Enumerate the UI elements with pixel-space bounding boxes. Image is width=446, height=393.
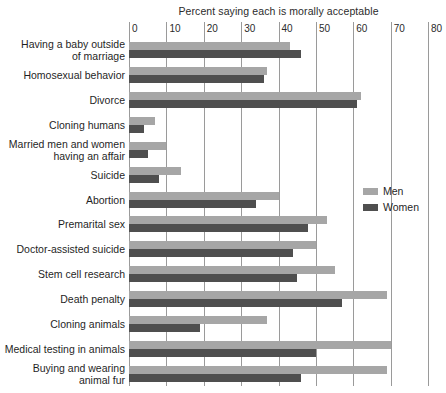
bar-group [129, 316, 429, 332]
x-axis-tick-label: 40 [279, 23, 293, 34]
gridline [241, 38, 242, 386]
x-axis-tick-label: 60 [353, 23, 367, 34]
category-label: Cloning animals [0, 318, 125, 330]
bar-women [129, 324, 200, 332]
bar-men [129, 366, 387, 374]
bar-men [129, 67, 267, 75]
bar-women [129, 125, 144, 133]
category-label: Abortion [0, 194, 125, 206]
bar-group [129, 142, 429, 158]
x-axis-tick-label: 20 [204, 23, 218, 34]
category-label: Married men and women having an affair [0, 138, 125, 162]
chart-title: Percent saying each is morally acceptabl… [129, 5, 428, 17]
gridline [353, 38, 354, 386]
bar-women [129, 224, 308, 232]
category-labels: Having a baby outside of marriageHomosex… [0, 38, 125, 386]
bar-men [129, 216, 327, 224]
category-label: Divorce [0, 94, 125, 106]
bar-women [129, 274, 297, 282]
bar-men [129, 92, 361, 100]
bar-men [129, 241, 316, 249]
bar-group [129, 216, 429, 232]
bar-women [129, 150, 148, 158]
legend-swatch-icon [363, 188, 378, 195]
legend-swatch-icon [363, 204, 378, 211]
category-label: Doctor-assisted suicide [0, 243, 125, 255]
x-axis-tick-label: 10 [166, 23, 180, 34]
bar-group [129, 366, 429, 382]
category-label: Premarital sex [0, 218, 125, 230]
legend-item: Women [363, 200, 435, 214]
category-label: Having a baby outside of marriage [0, 38, 125, 62]
bar-men [129, 266, 335, 274]
gridline [129, 38, 130, 386]
x-axis-tick-label: 70 [391, 23, 405, 34]
category-label: Buying and wearing animal fur [0, 362, 125, 386]
gridline [316, 38, 317, 386]
bar-men [129, 42, 290, 50]
category-label: Stem cell research [0, 268, 125, 280]
bar-women [129, 175, 159, 183]
category-label: Medical testing in animals [0, 343, 125, 355]
x-axis-tick-label: 80 [428, 23, 442, 34]
bar-group [129, 341, 429, 357]
bar-men [129, 341, 391, 349]
bar-women [129, 75, 264, 83]
gridline [279, 38, 280, 386]
bar-chart: Percent saying each is morally acceptabl… [0, 0, 446, 393]
bar-women [129, 200, 256, 208]
bar-women [129, 50, 301, 58]
category-label: Cloning humans [0, 119, 125, 131]
category-label: Suicide [0, 169, 125, 181]
category-label: Homosexual behavior [0, 69, 125, 81]
bar-group [129, 291, 429, 307]
gridline [166, 38, 167, 386]
x-axis-tick-label: 50 [316, 23, 330, 34]
bar-men [129, 192, 279, 200]
bar-group [129, 42, 429, 58]
bar-men [129, 117, 155, 125]
bar-women [129, 249, 293, 257]
x-axis-tick-labels: 01020304050607080 [129, 22, 428, 38]
legend-label: Men [383, 185, 403, 197]
gridline [204, 38, 205, 386]
legend-item: Men [363, 184, 435, 198]
bar-group [129, 117, 429, 133]
bar-group [129, 241, 429, 257]
chart-legend: MenWomen [363, 184, 435, 216]
bar-group [129, 67, 429, 83]
bar-women [129, 349, 316, 357]
bar-group [129, 92, 429, 108]
bar-men [129, 142, 166, 150]
x-axis-tick-label: 0 [129, 23, 138, 34]
x-axis-tick-label: 30 [241, 23, 255, 34]
bar-group [129, 266, 429, 282]
bar-women [129, 100, 357, 108]
bar-men [129, 167, 181, 175]
legend-label: Women [383, 201, 419, 213]
bar-women [129, 299, 342, 307]
bar-women [129, 374, 301, 382]
category-label: Death penalty [0, 293, 125, 305]
bar-group [129, 167, 429, 183]
bar-men [129, 291, 387, 299]
bar-men [129, 316, 267, 324]
